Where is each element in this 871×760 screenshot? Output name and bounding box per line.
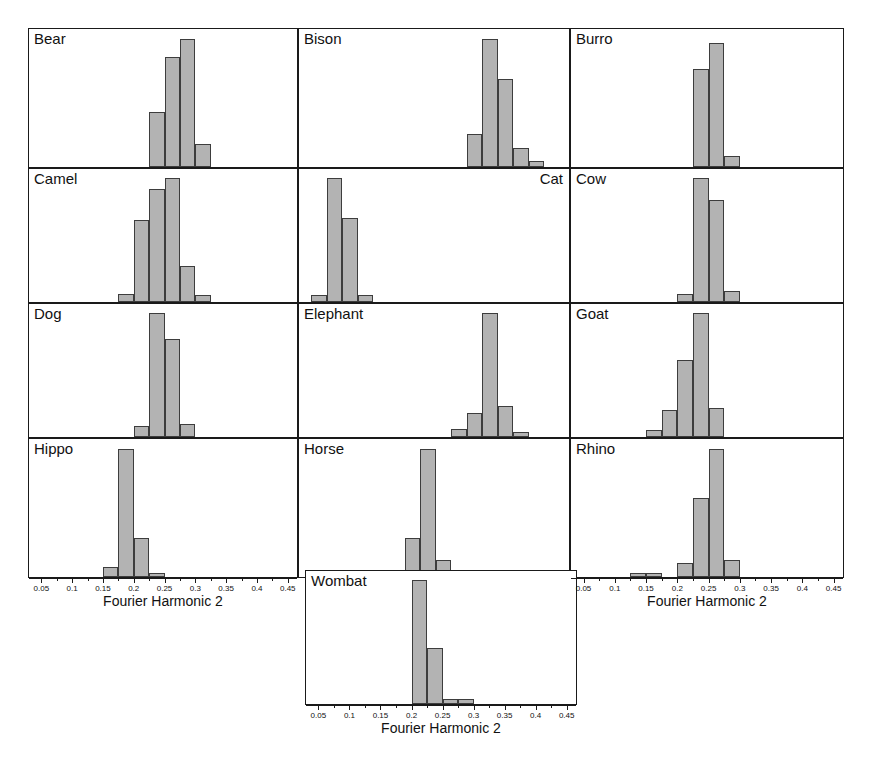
histogram-bar (149, 189, 164, 302)
axis-tick (288, 578, 289, 583)
histogram-bar (693, 178, 709, 302)
histogram-bar (677, 360, 693, 437)
axis-tick (584, 578, 585, 583)
panel-bison: Bison (298, 28, 570, 168)
histogram-bar (467, 134, 483, 167)
plot-area (29, 304, 297, 437)
axis-tick-label: 0.3 (734, 584, 745, 593)
axis-minor-tick (662, 578, 663, 581)
axis-minor-tick (630, 578, 631, 581)
histogram-bar (451, 429, 467, 437)
histogram-bar (311, 295, 327, 302)
x-axis-title: Fourier Harmonic 2 (306, 720, 576, 736)
histogram-bar (195, 295, 210, 302)
axis-tick-label: 0.2 (128, 584, 139, 593)
axis-tick (646, 578, 647, 583)
axis-tick-label: 0.35 (763, 584, 779, 593)
axis-tick-label: 0.4 (251, 584, 262, 593)
axis-tick-label: 0.15 (638, 584, 654, 593)
axis-minor-tick (57, 578, 58, 581)
axis-tick-label: 0.3 (190, 584, 201, 593)
axis-minor-tick (599, 578, 600, 581)
axis-minor-tick (149, 578, 150, 581)
axis-tick (41, 578, 42, 583)
axis-tick-label: 0.45 (826, 584, 842, 593)
histogram-bar (358, 295, 374, 302)
axis-tick-label: 0.25 (701, 584, 717, 593)
axis-minor-tick (334, 705, 335, 708)
plot-area (299, 169, 569, 302)
axis-minor-tick (396, 705, 397, 708)
axis-tick-label: 0.35 (497, 711, 513, 720)
histogram-bar (498, 79, 514, 167)
histogram-bar (693, 498, 709, 577)
axis-minor-tick (551, 705, 552, 708)
histogram-bar (724, 560, 740, 577)
axis-minor-tick (818, 578, 819, 581)
plot-area (299, 439, 569, 577)
axis-minor-tick (242, 578, 243, 581)
histogram-bar (180, 39, 195, 167)
panel-elephant: Elephant (298, 303, 570, 438)
axis-tick (412, 705, 413, 710)
axis-tick (615, 578, 616, 583)
histogram-bar (165, 339, 180, 437)
axis-tick (567, 705, 568, 710)
axis-tick (226, 578, 227, 583)
x-axis-bottom-panel: 0.050.10.150.20.250.30.350.40.45Fourier … (306, 705, 576, 745)
histogram-bar (412, 580, 428, 704)
histogram-bar (630, 573, 646, 577)
axis-tick (505, 705, 506, 710)
plot-area (571, 439, 843, 577)
axis-tick-label: 0.05 (311, 711, 327, 720)
axis-tick-label: 0.25 (435, 711, 451, 720)
plot-area (571, 169, 843, 302)
histogram-bar (118, 449, 133, 577)
axis-tick (771, 578, 772, 583)
axis-tick-label: 0.25 (157, 584, 173, 593)
histogram-bar (195, 144, 210, 167)
axis-tick (195, 578, 196, 583)
axis-minor-tick (724, 578, 725, 581)
histogram-bar (180, 266, 195, 302)
axis-tick-label: 0.35 (218, 584, 234, 593)
histogram-bar (529, 161, 545, 167)
histogram-bar (180, 424, 195, 437)
axis-minor-tick (755, 578, 756, 581)
axis-tick (740, 578, 741, 583)
histogram-bar (327, 178, 343, 302)
axis-tick-label: 0.05 (576, 584, 592, 593)
plot-area (299, 304, 569, 437)
axis-tick (536, 705, 537, 710)
axis-minor-tick (787, 578, 788, 581)
axis-tick-label: 0.2 (406, 711, 417, 720)
axis-tick (834, 578, 835, 583)
histogram-bar (662, 410, 678, 437)
histogram-bar (646, 573, 662, 577)
panel-horse: Horse (298, 438, 570, 578)
axis-tick-label: 0.4 (530, 711, 541, 720)
histogram-bar (693, 69, 709, 167)
histogram-bar (482, 39, 498, 167)
axis-tick-label: 0.45 (559, 711, 575, 720)
plot-area (571, 29, 843, 167)
axis-tick (103, 578, 104, 583)
panel-bear: Bear (28, 28, 298, 168)
axis-minor-tick (520, 705, 521, 708)
histogram-bar (427, 648, 443, 704)
axis-tick (380, 705, 381, 710)
trellis-histogram-figure: BearBisonBurroCamelCatCowDogElephantGoat… (0, 0, 871, 760)
panel-camel: Camel (28, 168, 298, 303)
axis-tick-label: 0.05 (34, 584, 50, 593)
plot-area (571, 304, 843, 437)
axis-tick (257, 578, 258, 583)
x-axis-title: Fourier Harmonic 2 (571, 593, 843, 609)
axis-tick-label: 0.1 (344, 711, 355, 720)
panel-hippo: Hippo (28, 438, 298, 578)
axis-tick-label: 0.3 (468, 711, 479, 720)
histogram-bar (443, 699, 459, 704)
histogram-bar (693, 313, 709, 437)
histogram-bar (724, 156, 740, 167)
x-axis-left-column: 0.050.10.150.20.250.30.350.40.45Fourier … (29, 578, 297, 618)
plot-area (29, 29, 297, 167)
